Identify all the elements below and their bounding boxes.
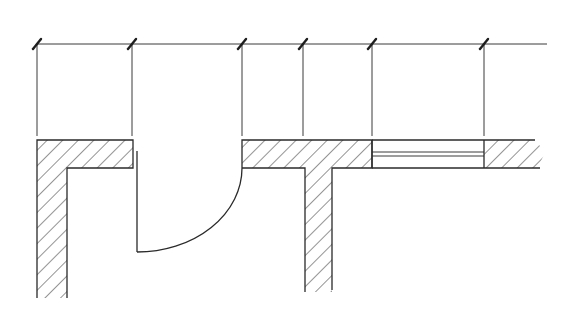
window-opening — [372, 140, 484, 168]
door-opening — [137, 151, 242, 252]
right-wall-segment — [484, 140, 545, 168]
left-wall-corner — [37, 140, 133, 298]
floor-plan-drawing — [0, 0, 573, 317]
door-swing-arc — [137, 168, 242, 252]
dimension-chain — [33, 39, 547, 136]
middle-wall-tee — [242, 140, 372, 292]
